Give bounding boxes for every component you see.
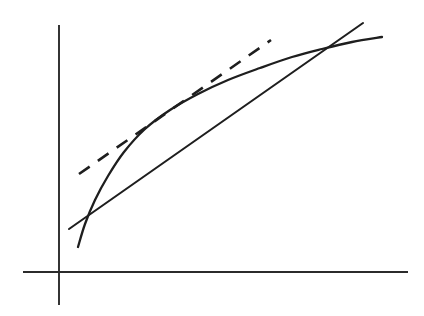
chart-background	[0, 0, 424, 316]
figure-container: Concave curve with tangent line and seca…	[0, 0, 424, 316]
curve-tangent-secant-chart	[0, 0, 424, 316]
